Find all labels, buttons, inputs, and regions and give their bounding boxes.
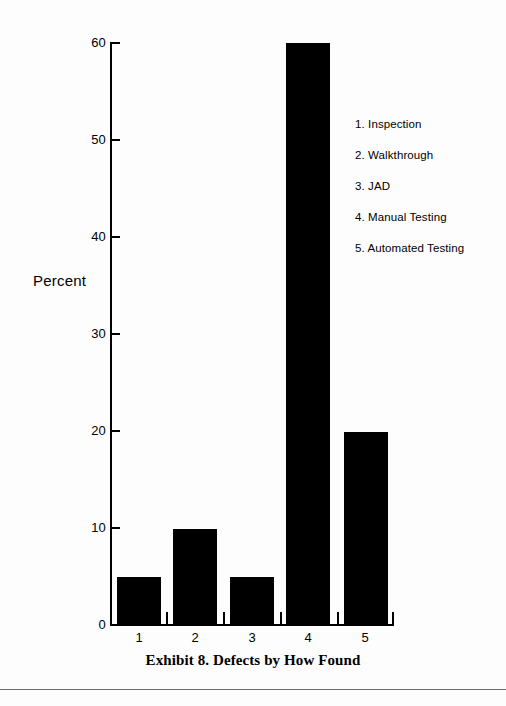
legend-item: 4. Manual Testing xyxy=(355,211,505,223)
footer-divider xyxy=(0,689,506,690)
legend-item: 1. Inspection xyxy=(355,118,505,130)
x-tick-label: 2 xyxy=(180,631,210,645)
x-tick-label: 3 xyxy=(237,631,267,645)
figure-container: Percent 60 50 40 30 20 10 0 1 2 3 4 5 1.… xyxy=(0,0,506,706)
legend-item: 5. Automated Testing xyxy=(355,242,505,254)
figure-caption: Exhibit 8. Defects by How Found xyxy=(0,651,506,669)
bar-4 xyxy=(286,43,330,626)
bar-2 xyxy=(173,529,217,626)
bars-layer xyxy=(0,0,506,626)
legend-item: 3. JAD xyxy=(355,180,505,192)
legend: 1. Inspection 2. Walkthrough 3. JAD 4. M… xyxy=(355,118,505,273)
bar-3 xyxy=(230,577,274,626)
x-tick-label: 1 xyxy=(124,631,154,645)
x-tick-label: 4 xyxy=(293,631,323,645)
x-tick-label: 5 xyxy=(350,631,380,645)
x-tick-mark xyxy=(337,612,339,624)
bar-5 xyxy=(344,432,388,626)
legend-item: 2. Walkthrough xyxy=(355,149,505,161)
bar-1 xyxy=(117,577,161,626)
x-tick-mark xyxy=(280,612,282,624)
x-tick-mark xyxy=(166,612,168,624)
x-tick-mark xyxy=(223,612,225,624)
x-tick-mark xyxy=(392,612,394,624)
